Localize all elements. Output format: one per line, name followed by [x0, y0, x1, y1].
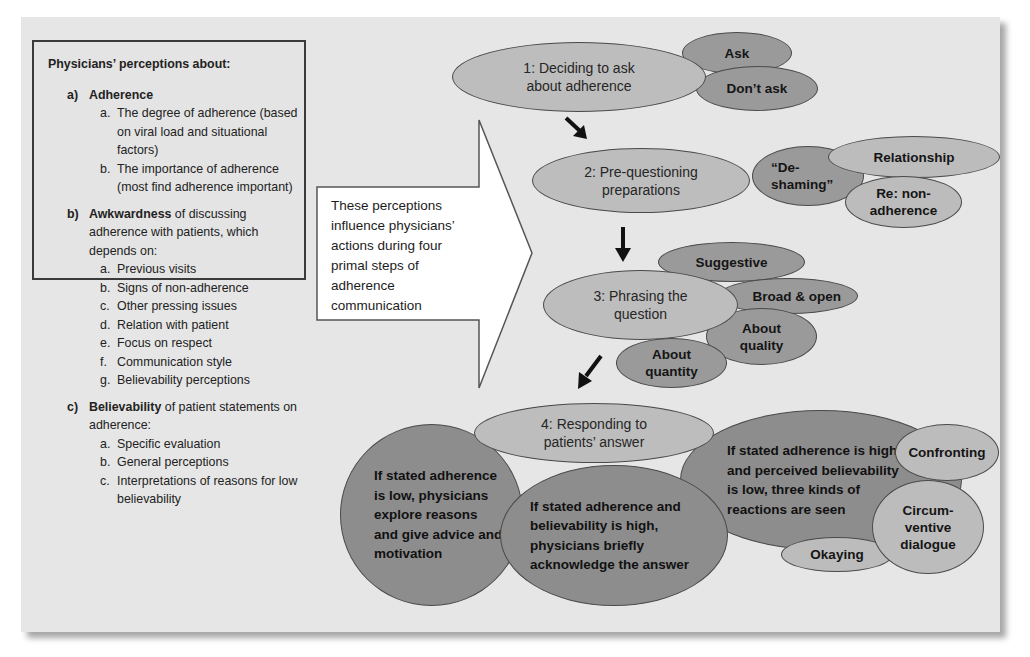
step-4-responding: 4: Responding to patients’ answer: [474, 403, 714, 463]
response-high-adherence-believability: If stated adherence and believability is…: [500, 465, 728, 606]
option-re-non-adherence: Re: non-adherence: [845, 176, 962, 228]
response-low-adherence: If stated adherence is low, physicians e…: [340, 424, 523, 606]
option-dont-ask: Don’t ask: [696, 66, 818, 111]
option-about-quantity: About quantity: [616, 338, 727, 388]
step-1-deciding-to-ask: 1: Deciding to ask about adherence: [452, 42, 706, 112]
influence-arrow-text: These perceptions influence physicians’ …: [331, 196, 481, 316]
arrow-step1-to-step2: [566, 118, 587, 139]
option-relationship: Relationship: [828, 136, 1000, 178]
reaction-circumventive-dialogue: Circum-ventive dialogue: [872, 480, 984, 574]
arrow-step2-to-step3: [615, 227, 631, 262]
reaction-confronting: Confronting: [895, 424, 999, 481]
step-2-pre-questioning: 2: Pre-questioning preparations: [532, 148, 750, 213]
step-3-phrasing: 3: Phrasing the question: [543, 270, 738, 340]
arrow-step3-to-step4: [578, 356, 601, 389]
option-broad-and-open: Broad & open: [718, 278, 858, 314]
